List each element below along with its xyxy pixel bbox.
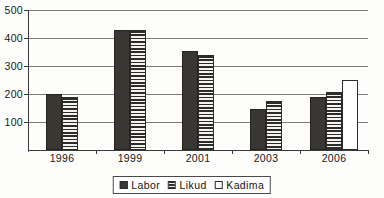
bar-likud-1999 — [130, 30, 146, 150]
x-axis-label-2006: 2006 — [322, 152, 347, 164]
bar-group-1999 — [114, 10, 146, 150]
y-tick-300 — [24, 66, 29, 67]
bar-labor-1996 — [46, 94, 62, 150]
chart-legend: LaborLikudKadima — [113, 176, 271, 194]
bar-group-1996 — [46, 10, 78, 150]
x-tick-2001 — [232, 150, 233, 154]
x-tick-2003 — [300, 150, 301, 154]
bar-likud-2006 — [326, 92, 342, 149]
y-axis-label-200: 200 — [5, 88, 23, 100]
legend-item-likud: Likud — [168, 179, 207, 191]
x-tick-1996 — [96, 150, 97, 154]
y-axis-label-300: 300 — [5, 60, 23, 72]
y-tick-500 — [24, 10, 29, 11]
bar-group-2001 — [182, 10, 214, 150]
y-axis-label-100: 100 — [5, 116, 23, 128]
bar-likud-2003 — [266, 101, 282, 150]
bar-kadima-2006 — [342, 80, 358, 149]
x-axis-label-1999: 1999 — [118, 152, 143, 164]
y-axis-label-500: 500 — [5, 4, 23, 16]
y-tick-100 — [24, 122, 29, 123]
x-axis-label-2001: 2001 — [186, 152, 211, 164]
y-tick-400 — [24, 38, 29, 39]
plot-area: 100200300400500 — [28, 10, 368, 151]
x-axis-label-1996: 1996 — [50, 152, 75, 164]
y-tick-200 — [24, 94, 29, 95]
bar-labor-2001 — [182, 51, 198, 149]
legend-label-labor: Labor — [131, 179, 160, 191]
legend-item-labor: Labor — [120, 179, 160, 191]
bar-likud-1996 — [62, 97, 78, 150]
legend-swatch-likud-icon — [168, 181, 176, 189]
legend-swatch-kadima-icon — [215, 181, 223, 189]
bar-labor-1999 — [114, 30, 130, 150]
x-tick-2006 — [368, 150, 369, 154]
bar-likud-2001 — [198, 55, 214, 149]
bar-labor-2006 — [310, 97, 326, 150]
x-axis-line — [28, 150, 368, 151]
x-axis-label-2003: 2003 — [254, 152, 279, 164]
bar-group-2003 — [250, 10, 282, 150]
legend-label-kadima: Kadima — [226, 179, 264, 191]
legend-item-kadima: Kadima — [215, 179, 265, 191]
y-axis-label-400: 400 — [5, 32, 23, 44]
x-tick-1999 — [164, 150, 165, 154]
legend-label-likud: Likud — [180, 179, 207, 191]
bar-chart-figure: 100200300400500 19961999200120032006 Lab… — [0, 0, 384, 198]
legend-swatch-labor-icon — [120, 181, 128, 189]
bar-group-2006 — [310, 10, 358, 150]
y-axis-line — [28, 10, 29, 151]
bar-labor-2003 — [250, 109, 266, 149]
